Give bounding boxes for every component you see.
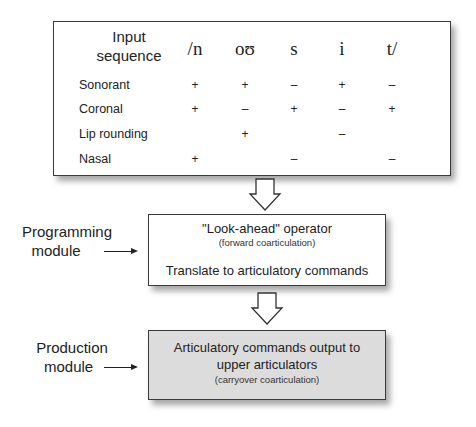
feature-value: – (332, 102, 352, 116)
feature-value: – (235, 102, 255, 116)
feature-value: – (382, 152, 402, 166)
carryover-subtitle: (carryover coarticulation) (149, 374, 385, 386)
feature-value: – (284, 78, 304, 92)
feature-value: + (382, 102, 402, 116)
feature-value: + (185, 78, 205, 92)
feature-value: + (235, 127, 255, 141)
segment-t: t/ (372, 38, 412, 60)
down-arrow-icon (250, 292, 284, 326)
label-line-1: Production (22, 338, 122, 357)
segment-i: i (322, 38, 362, 60)
feature-value: – (284, 152, 304, 166)
feature-value: + (235, 78, 255, 92)
feature-label: Sonorant (79, 78, 130, 92)
feature-value: + (332, 78, 352, 92)
feature-value: – (382, 78, 402, 92)
lookahead-subtitle: (forward coarticulation) (149, 237, 385, 249)
programming-module-label: Programming module (12, 222, 122, 260)
input-sequence-table: Input sequence /n oʊ s i t/ Sonorant++–+… (53, 21, 451, 176)
down-arrow-icon (248, 178, 282, 212)
feature-label: Lip rounding (79, 127, 148, 141)
segment-ou: oʊ (225, 38, 265, 60)
programming-module-box: "Look-ahead" operator (forward coarticul… (148, 214, 386, 286)
output-line-2: upper articulators (149, 357, 385, 373)
right-arrow-icon (104, 251, 136, 252)
production-module-box: Articulatory commands output to upper ar… (148, 330, 386, 400)
feature-value: + (185, 152, 205, 166)
feature-value: + (185, 102, 205, 116)
translate-text: Translate to articulatory commands (149, 263, 385, 279)
right-arrow-icon (104, 367, 136, 368)
feature-label: Nasal (79, 152, 111, 166)
label-line-1: Programming (12, 222, 122, 241)
segment-n: /n (175, 38, 215, 60)
segment-s: s (274, 38, 314, 60)
feature-label: Coronal (79, 102, 123, 116)
lookahead-title: "Look-ahead" operator (149, 221, 385, 237)
production-module-label: Production module (22, 338, 122, 376)
feature-value: + (284, 102, 304, 116)
output-line-1: Articulatory commands output to (149, 340, 385, 356)
feature-value: – (332, 127, 352, 141)
